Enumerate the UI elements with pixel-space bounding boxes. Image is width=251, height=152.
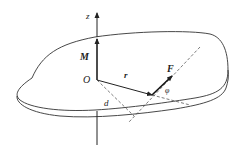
label-d: d: [104, 98, 109, 108]
moment-diagram: z M O r F d φ: [0, 0, 251, 152]
label-z: z: [85, 11, 90, 21]
label-F: F: [166, 63, 174, 74]
label-O: O: [83, 74, 90, 85]
plate-bottom-edge: [17, 70, 228, 117]
label-r: r: [124, 70, 128, 80]
plate-top-surface: [17, 32, 228, 111]
position-vector-r: [97, 80, 152, 95]
label-phi: φ: [165, 86, 170, 95]
label-M: M: [79, 51, 90, 62]
